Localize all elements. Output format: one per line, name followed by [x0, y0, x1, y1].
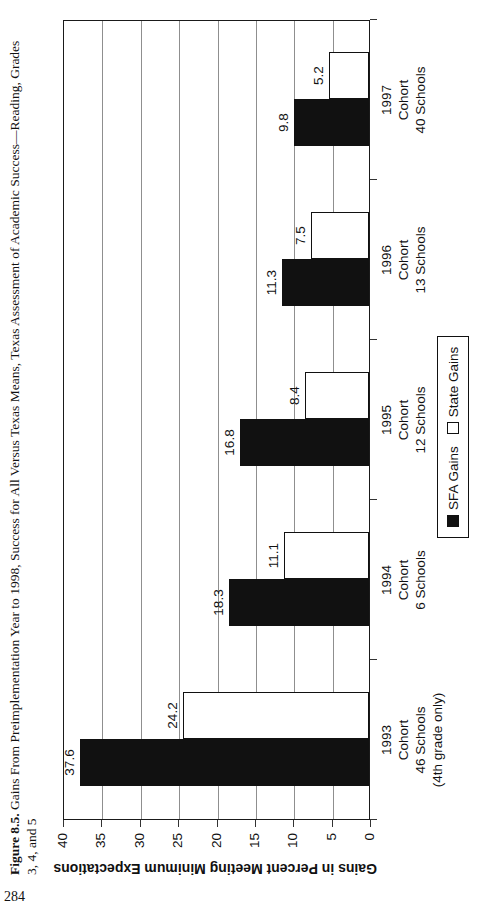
y-axis-tick [370, 820, 371, 827]
bar-sfa-1997 [294, 99, 369, 146]
x-axis-tick [370, 19, 377, 20]
category-label-line: Cohort [395, 500, 412, 660]
bar-state-1994 [284, 532, 369, 579]
x-axis-tick [370, 499, 377, 500]
y-axis-tick-label: 40 [55, 833, 71, 879]
category-label-line: 6 Schools [412, 500, 429, 660]
y-axis-tick-label: 15 [247, 833, 263, 879]
category-label-1997: 1997Cohort40 Schools [378, 20, 429, 180]
bar-sfa-1993 [80, 739, 369, 786]
x-axis-tick [370, 179, 377, 180]
sfa-swatch-icon [447, 515, 459, 527]
y-axis-tick [63, 820, 64, 827]
y-axis-tick [255, 820, 256, 827]
bar-value-label: 7.5 [294, 226, 308, 245]
figure-caption-text: Gains From Preimplementation Year to 199… [7, 41, 22, 810]
bar-state-1997 [329, 52, 369, 99]
legend-label-state: State Gains [446, 347, 461, 418]
y-axis-tick [101, 820, 102, 827]
category-label-line: 40 Schools [412, 20, 429, 180]
category-label-line: 13 Schools [412, 180, 429, 340]
bar-value-label: 16.8 [223, 429, 237, 455]
bar-value-label: 37.6 [63, 749, 77, 775]
bar-value-label: 11.1 [267, 543, 281, 568]
bar-value-label: 24.2 [166, 702, 180, 728]
y-axis-tick [217, 820, 218, 827]
bar-value-label: 9.8 [277, 113, 291, 132]
plot-area: 37.618.316.811.39.824.211.18.47.55.2 [63, 20, 370, 820]
category-label-line: Cohort [395, 180, 412, 340]
y-axis-tick-label: 10 [285, 833, 301, 879]
state-swatch-icon [447, 422, 459, 434]
x-axis-tick [370, 659, 377, 660]
category-label-line: (4th grade only) [429, 660, 446, 820]
category-label-line: 1996 [378, 180, 395, 340]
category-label-1993: 1993Cohort46 Schools(4th grade only) [378, 660, 446, 820]
category-label-line: 1997 [378, 20, 395, 180]
y-axis-tick-label: 0 [362, 833, 378, 879]
gridline-35 [102, 21, 103, 819]
y-axis-tick-label: 20 [209, 833, 225, 879]
bar-sfa-1994 [229, 579, 369, 626]
bar-value-label: 5.2 [312, 66, 326, 85]
category-label-line: Cohort [395, 340, 412, 500]
y-axis-tick [140, 820, 141, 827]
figure-caption: Figure 8.5. Gains From Preimplementation… [7, 3, 40, 875]
bar-state-1996 [311, 212, 369, 259]
y-axis-tick-label: 5 [324, 833, 340, 879]
y-axis-tick-label: 25 [170, 833, 186, 879]
y-axis-tick-label: 35 [93, 833, 109, 879]
bar-state-1993 [183, 692, 369, 739]
legend-item-state: State Gains [446, 347, 461, 435]
bar-value-label: 11.3 [265, 270, 279, 295]
book-page: Figure 8.5. Gains From Preimplementation… [0, 0, 482, 913]
gridline-30 [141, 21, 142, 819]
category-label-line: 12 Schools [412, 340, 429, 500]
category-label-1995: 1995Cohort12 Schools [378, 340, 429, 500]
legend: SFA Gains State Gains [437, 336, 469, 538]
y-axis-tick-label: 30 [132, 833, 148, 879]
category-label-line: 46 Schools [412, 660, 429, 820]
bar-value-label: 18.3 [212, 589, 226, 615]
category-label-line: 1994 [378, 500, 395, 660]
gridline-25 [179, 21, 180, 819]
y-axis-tick [178, 820, 179, 827]
category-label-1996: 1996Cohort13 Schools [378, 180, 429, 340]
bar-sfa-1995 [240, 419, 369, 466]
page-number: 284 [4, 889, 25, 905]
bar-value-label: 8.4 [288, 386, 302, 405]
category-label-line: Cohort [395, 20, 412, 180]
figure-caption-label: Figure 8.5. [7, 813, 22, 875]
bar-state-1995 [305, 372, 369, 419]
legend-item-sfa: SFA Gains [446, 446, 461, 527]
y-axis-tick [332, 820, 333, 827]
figure-8-5-rotated: Figure 8.5. Gains From Preimplementation… [0, 0, 482, 913]
category-label-line: Cohort [395, 660, 412, 820]
legend-label-sfa: SFA Gains [446, 446, 461, 510]
category-label-line: 1993 [378, 660, 395, 820]
category-label-1994: 1994Cohort6 Schools [378, 500, 429, 660]
bar-sfa-1996 [282, 259, 369, 306]
y-axis-tick [293, 820, 294, 827]
category-label-line: 1995 [378, 340, 395, 500]
figure-caption-line2: 3, 4, and 5 [24, 3, 41, 875]
x-axis-tick [370, 819, 377, 820]
x-axis-tick [370, 339, 377, 340]
